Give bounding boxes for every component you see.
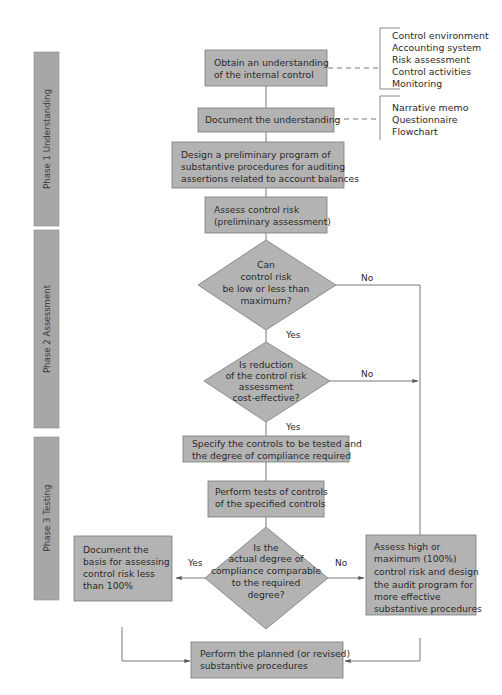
decision-control-risk-low: Can control risk be low or less than max…: [198, 240, 336, 330]
documentation-list: Narrative memo Questionnaire Flowchart: [392, 102, 469, 137]
box-text: maximum (100%): [374, 553, 457, 564]
box-text: assertions related to account balances: [181, 173, 359, 184]
list-item: Questionnaire: [392, 114, 458, 125]
document-basis-box: Document the basis for assessing control…: [74, 536, 172, 601]
box-text: more effective: [374, 591, 441, 602]
diamond-text: actual degree of: [228, 553, 304, 564]
diamond-text: be low or less than: [223, 283, 310, 294]
box-text: control risk less: [83, 568, 155, 579]
document-understanding-box: Document the understanding: [198, 108, 340, 132]
box-text: Design a preliminary program of: [181, 149, 331, 160]
diamond-text: Is reduction: [239, 359, 293, 370]
box-text: basis for assessing: [83, 556, 170, 567]
diamond-text: Is the: [253, 542, 279, 553]
edge-label-yes: Yes: [187, 558, 203, 568]
decision-compliance: Is the actual degree of compliance compa…: [205, 527, 328, 629]
obtain-understanding-box: Obtain an understanding of the internal …: [205, 50, 329, 86]
box-text: (preliminary assessment): [214, 216, 331, 227]
perform-tests-box: Perform tests of controls of the specifi…: [208, 481, 328, 517]
box-text: Document the understanding: [205, 114, 340, 125]
components-list: Control environment Accounting system Ri…: [392, 30, 489, 89]
box-text: Perform tests of controls: [215, 486, 328, 497]
box-text: the degree of compliance required: [192, 450, 351, 461]
list-item: Risk assessment: [392, 54, 470, 65]
list-item: Flowchart: [392, 126, 438, 137]
diamond-text: Can: [257, 259, 275, 270]
audit-flowchart: Phase 1 Understanding Phase 2 Assessment…: [0, 0, 502, 695]
box-text: control risk and design: [374, 566, 479, 577]
edge-label-no: No: [361, 273, 374, 283]
box-text: Document the: [83, 544, 149, 555]
phase-3-label: Phase 3 Testing: [42, 485, 52, 552]
box-text: the audit program for: [374, 579, 473, 590]
phase-1-label: Phase 1 Understanding: [42, 89, 52, 189]
edge-label-no: No: [335, 558, 348, 568]
phase-2-label: Phase 2 Assessment: [42, 284, 52, 373]
diamond-text: degree?: [247, 589, 284, 600]
box-text: Assess control risk: [214, 204, 300, 215]
decision-cost-effective: Is reduction of the control risk assessm…: [204, 342, 330, 422]
specify-controls-box: Specify the controls to be tested and th…: [183, 436, 362, 462]
assess-high-risk-box: Assess high or maximum (100%) control ri…: [366, 535, 482, 615]
assess-control-risk-box: Assess control risk (preliminary assessm…: [205, 197, 331, 233]
box-text: Assess high or: [374, 541, 441, 552]
phase-3-bar: Phase 3 Testing: [34, 437, 59, 600]
design-program-box: Design a preliminary program of substant…: [172, 142, 359, 188]
edge-label-yes: Yes: [285, 330, 301, 340]
diamond-text: compliance comparable: [211, 565, 322, 576]
diamond-text: assessment: [239, 381, 294, 392]
list-item: Narrative memo: [392, 102, 469, 113]
box-text: substantive procedures for auditing: [181, 161, 345, 172]
box-text: of the internal control: [214, 69, 314, 80]
diamond-text: of the control risk: [226, 370, 308, 381]
box-text: substantive procedures: [200, 660, 308, 671]
box-text: Obtain an understanding: [214, 57, 329, 68]
edge-label-yes: Yes: [285, 422, 301, 432]
list-item: Accounting system: [392, 42, 481, 53]
box-text: Specify the controls to be tested and: [192, 438, 362, 449]
box-text: of the specified controls: [215, 498, 326, 509]
edge-label-no: No: [361, 369, 374, 379]
list-item: Monitoring: [392, 78, 442, 89]
perform-substantive-box: Perform the planned (or revised) substan…: [191, 642, 350, 678]
diamond-text: cost-effective?: [232, 392, 299, 403]
box-text: than 100%: [83, 580, 133, 591]
diamond-text: to the required: [232, 577, 301, 588]
phase-2-bar: Phase 2 Assessment: [34, 230, 59, 428]
list-item: Control activities: [392, 66, 471, 77]
box-text: Perform the planned (or revised): [200, 648, 350, 659]
diamond-text: control risk: [240, 271, 292, 282]
box-text: substantive procedures: [374, 603, 482, 614]
phase-1-bar: Phase 1 Understanding: [34, 52, 59, 226]
list-item: Control environment: [392, 30, 489, 41]
diamond-text: maximum?: [240, 295, 291, 306]
